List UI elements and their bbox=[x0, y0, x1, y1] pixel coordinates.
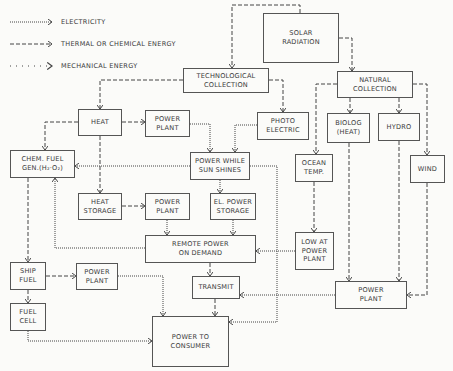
node-heat: HEAT bbox=[78, 109, 122, 136]
node-transmit: TRANSMIT bbox=[192, 276, 240, 299]
node-wind: WIND bbox=[410, 155, 445, 183]
node-power-plant-1: POWER PLANT bbox=[145, 110, 190, 137]
node-power-to-consumer: POWER TO CONSUMER bbox=[152, 316, 229, 367]
node-heat-storage: HEAT STORAGE bbox=[78, 193, 122, 220]
connector-solar-to-natural bbox=[339, 38, 352, 71]
node-hydro: HYDRO bbox=[378, 113, 420, 141]
node-fuel-cell: FUEL CELL bbox=[10, 303, 46, 331]
connector-fuelcell-to-consumer bbox=[28, 331, 152, 341]
connector-tech-to-heat bbox=[100, 80, 183, 109]
connector-heat-to-chem bbox=[45, 122, 78, 150]
connector-photo-to-pws bbox=[235, 125, 257, 152]
node-ocean-temp: OCEAN TEMP. bbox=[295, 154, 333, 182]
legend-electricity: ELECTRICITY bbox=[61, 18, 105, 26]
node-chem-fuel-gen: CHEM. FUEL GEN.(H₂·O₂) bbox=[10, 150, 75, 178]
node-biolog-heat: BIOLOG (HEAT) bbox=[327, 113, 370, 143]
connector-pp1-to-pws bbox=[190, 124, 210, 152]
node-low-at-power-plant: LOW AT POWER PLANT bbox=[295, 232, 334, 270]
node-power-plant-2: POWER PLANT bbox=[145, 193, 190, 220]
connector-wind-to-pp4 bbox=[407, 183, 427, 295]
node-ship-fuel: SHIP FUEL bbox=[10, 262, 46, 290]
legend-mechanical: MECHANICAL ENERGY bbox=[61, 62, 137, 70]
node-power-while-sun-shines: POWER WHILE SUN SHINES bbox=[190, 152, 250, 180]
node-natural-collection: NATURAL COLLECTION bbox=[337, 71, 413, 98]
connector-tech-to-photo bbox=[269, 80, 283, 112]
node-photo-electric: PHOTO ELECTRIC bbox=[257, 112, 309, 140]
node-power-plant-4: POWER PLANT bbox=[335, 281, 407, 309]
legend-thermal: THERMAL OR CHEMICAL ENERGY bbox=[61, 40, 176, 48]
node-power-plant-3: POWER PLANT bbox=[76, 263, 118, 290]
node-remote-power-on-demand: REMOTE POWER ON DEMAND bbox=[145, 235, 256, 263]
node-el-power-storage: EL. POWER STORAGE bbox=[210, 193, 256, 220]
connector-pp3-to-consumer bbox=[118, 276, 163, 316]
node-solar-radiation: SOLAR RADIATION bbox=[263, 13, 339, 63]
node-technological-collection: TECHNOLOGICAL COLLECTION bbox=[183, 68, 269, 93]
